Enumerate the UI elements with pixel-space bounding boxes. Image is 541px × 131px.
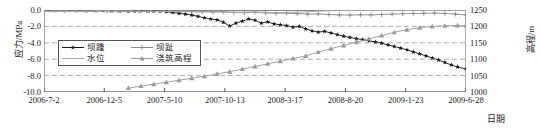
data-point-marker [436, 58, 441, 62]
data-point-marker [392, 44, 397, 48]
y-tick-right: 1050 [470, 72, 487, 81]
data-point-marker [227, 24, 232, 28]
data-point-marker [259, 21, 264, 25]
y-tick-left: -4.0 [11, 39, 41, 48]
data-point-marker [424, 54, 429, 58]
y-tick-right: 1250 [470, 6, 487, 15]
y-tick-left: 0.0 [11, 6, 41, 15]
data-point-marker [322, 29, 327, 33]
data-point-marker [210, 10, 215, 14]
y-tick-left: -2.0 [11, 22, 41, 31]
data-point-marker [263, 10, 268, 15]
data-point-marker [272, 22, 277, 26]
legend-swatch-line-triangle-icon [130, 54, 154, 63]
data-point-marker [297, 24, 302, 28]
data-point-marker [274, 11, 279, 16]
data-point-marker [208, 17, 213, 21]
data-point-marker [411, 11, 416, 16]
data-point-marker [316, 12, 321, 17]
y-tick-right: 1100 [470, 55, 487, 64]
data-point-marker [421, 11, 426, 16]
legend-label: 水位 [87, 54, 105, 63]
legend-item-0: 坝踵 [61, 43, 130, 52]
y-tick-left: -8.0 [11, 72, 41, 81]
data-point-marker [139, 45, 144, 50]
data-point-marker [196, 14, 201, 18]
data-point-marker [405, 47, 410, 51]
legend-swatch-line-plus-icon [130, 43, 154, 52]
data-point-marker [379, 12, 384, 17]
data-point-marker [291, 25, 296, 29]
data-point-marker [400, 11, 405, 16]
data-point-marker [234, 21, 239, 25]
legend-swatch-line-star-icon [61, 43, 85, 52]
data-point-marker [265, 19, 270, 23]
data-point-marker [390, 12, 395, 17]
data-point-marker [303, 26, 308, 30]
x-axis-title: 日期 [487, 112, 505, 125]
data-point-marker [443, 11, 448, 16]
data-point-marker [432, 11, 437, 16]
data-point-marker [453, 12, 458, 17]
data-point-marker [240, 19, 245, 23]
data-point-marker [183, 12, 188, 16]
legend-item-3: 浇筑高程 [130, 54, 199, 63]
data-point-marker [326, 12, 331, 17]
x-tick: 2007-10-13 [205, 96, 245, 105]
x-tick: 2008-8-20 [328, 96, 363, 105]
data-point-marker [449, 63, 454, 67]
data-point-marker [337, 13, 342, 18]
x-tick: 2006-7-2 [28, 96, 59, 105]
y-tick-left: -6.0 [11, 55, 41, 64]
chart-legend: 坝踵 坝趾 水位 浇筑高程 [58, 40, 201, 66]
x-tick: 2006-12-5 [87, 96, 122, 105]
legend-item-1: 坝趾 [130, 43, 199, 52]
data-point-marker [455, 65, 460, 69]
y-tick-right: 1150 [470, 39, 487, 48]
data-point-marker [464, 13, 466, 18]
x-tick: 2009-6-28 [448, 96, 483, 105]
x-tick: 2009-1-23 [388, 96, 423, 105]
data-point-marker [284, 23, 289, 27]
data-point-marker [348, 13, 353, 18]
data-point-marker [71, 45, 76, 49]
legend-label: 坝踵 [87, 43, 105, 52]
data-point-marker [341, 34, 346, 38]
y-axis-right-title: 高程/m [524, 5, 537, 75]
legend-item-2: 水位 [61, 54, 130, 63]
legend-label: 坝趾 [156, 43, 174, 52]
data-point-marker [358, 12, 363, 17]
data-point-marker [348, 35, 353, 39]
data-point-marker [369, 13, 374, 18]
data-point-marker [329, 31, 334, 35]
chart-figure: 应力/MPa 高程/m 日期 0.0-2.0-4.0-6.0-8.0-10.0 … [0, 0, 541, 131]
data-point-marker [417, 51, 422, 55]
data-point-marker [202, 15, 207, 19]
data-point-marker [379, 41, 384, 45]
y-tick-right: 1200 [470, 22, 487, 31]
data-point-marker [411, 49, 416, 53]
data-point-marker [316, 30, 321, 34]
data-point-marker [253, 18, 258, 22]
data-point-marker [284, 11, 289, 16]
legend-label: 浇筑高程 [156, 54, 192, 63]
data-point-marker [443, 60, 448, 64]
legend-swatch-line-plain-icon [61, 54, 85, 63]
data-point-marker [335, 32, 340, 36]
data-point-marker [215, 17, 220, 21]
data-point-marker [398, 46, 403, 50]
x-tick: 2007-5-10 [147, 96, 182, 105]
data-point-marker [373, 40, 378, 44]
data-point-marker [310, 29, 315, 33]
data-point-marker [246, 17, 251, 21]
x-tick: 2008-3-17 [267, 96, 302, 105]
